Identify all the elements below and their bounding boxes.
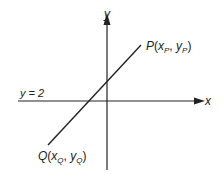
y-axis-label: y bbox=[103, 7, 111, 21]
point-p-label: P(xP, yP) bbox=[146, 39, 191, 55]
point-p-name: P bbox=[146, 39, 154, 53]
horizontal-line-label: y = 2 bbox=[19, 87, 44, 99]
point-q-name: Q bbox=[38, 149, 47, 163]
x-axis-label: x bbox=[204, 94, 212, 108]
x-axis-arrow-icon bbox=[194, 98, 205, 105]
coordinate-diagram: y x y = 2 P(xP, yP) Q(xQ, yQ) bbox=[0, 0, 224, 178]
line-pq bbox=[48, 45, 141, 145]
point-q-label: Q(xQ, yQ) bbox=[38, 149, 86, 165]
